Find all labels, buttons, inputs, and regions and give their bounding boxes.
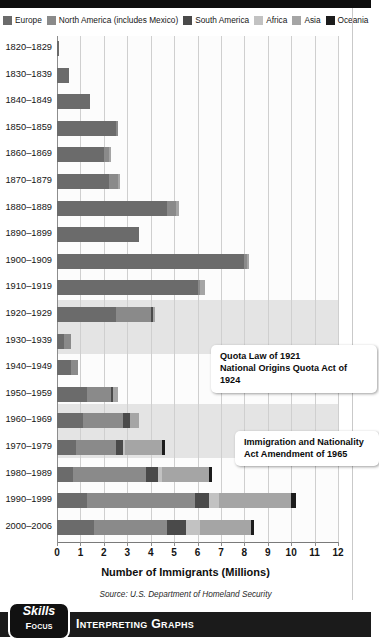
bar-segment bbox=[176, 201, 178, 216]
bar-segment bbox=[162, 440, 164, 455]
x-axis-tick bbox=[268, 542, 269, 546]
immigration-act-callout: Immigration and Nationality Act Amendmen… bbox=[235, 431, 379, 466]
x-axis-tick bbox=[104, 542, 105, 546]
y-axis-label: 1920–1929 bbox=[0, 308, 52, 318]
y-axis-label: 1980–1989 bbox=[0, 468, 52, 478]
x-axis-tick bbox=[80, 542, 81, 546]
bar-segment bbox=[167, 201, 176, 216]
bar-segment bbox=[116, 307, 151, 322]
skills-badge-word-skills: Skills bbox=[8, 604, 70, 618]
bar-segment bbox=[57, 493, 87, 508]
legend-item-africa: Africa bbox=[254, 16, 287, 25]
x-axis-tick-label: 4 bbox=[141, 547, 161, 558]
bar-segment bbox=[200, 280, 205, 295]
bar-segment bbox=[57, 334, 64, 349]
skills-badge-word-focus: Focus bbox=[8, 620, 70, 631]
x-axis-tick-label: 7 bbox=[211, 547, 231, 558]
y-axis-label: 1900–1909 bbox=[0, 255, 52, 265]
bar-segment bbox=[83, 413, 123, 428]
top-black-strip bbox=[0, 0, 371, 8]
bar-segment bbox=[247, 254, 249, 269]
y-axis-label: 1880–1889 bbox=[0, 202, 52, 212]
x-axis-tick bbox=[221, 542, 222, 546]
bar-segment bbox=[57, 94, 90, 109]
bar-segment bbox=[113, 387, 118, 402]
bar-segment bbox=[57, 254, 244, 269]
quota-callout-line-2: National Origins Quota Act of 1924 bbox=[220, 362, 368, 386]
bar-segment bbox=[57, 520, 94, 535]
legend-item-label: Asia bbox=[304, 16, 320, 25]
bar-segment bbox=[57, 280, 198, 295]
stacked-bar bbox=[57, 254, 249, 269]
bar-segment bbox=[87, 387, 110, 402]
stacked-bar bbox=[57, 201, 179, 216]
x-axis-tick bbox=[127, 542, 128, 546]
legend-item-europe: Europe bbox=[3, 16, 42, 25]
bar-segment bbox=[219, 493, 292, 508]
bar-segment bbox=[195, 493, 209, 508]
bar-segment bbox=[116, 121, 118, 136]
legend-item-label: South America bbox=[195, 16, 249, 25]
bar-segment bbox=[57, 147, 104, 162]
bar-segment bbox=[57, 413, 83, 428]
bar-segment bbox=[87, 493, 195, 508]
x-axis-tick-label: 2 bbox=[94, 547, 114, 558]
stacked-bar bbox=[57, 280, 205, 295]
bar-segment bbox=[57, 68, 69, 83]
stacked-bar bbox=[57, 334, 71, 349]
x-axis-tick-label: 5 bbox=[164, 547, 184, 558]
y-axis-label: 1850–1859 bbox=[0, 122, 52, 132]
bar-segment bbox=[125, 440, 162, 455]
legend-item-label: North America (includes Mexico) bbox=[59, 16, 178, 25]
x-axis-tick-label: 3 bbox=[117, 547, 137, 558]
x-axis-tick-label: 10 bbox=[281, 547, 301, 558]
bar-segment bbox=[57, 360, 71, 375]
stacked-bar bbox=[57, 41, 59, 56]
legend-swatch-icon bbox=[254, 16, 263, 25]
legend-swatch-icon bbox=[3, 16, 12, 25]
bar-segment bbox=[57, 227, 139, 242]
x-axis-tick-label: 8 bbox=[234, 547, 254, 558]
bar-segment bbox=[57, 387, 87, 402]
legend-item-asia: Asia bbox=[292, 16, 320, 25]
x-axis-tick bbox=[174, 542, 175, 546]
x-axis-tick bbox=[57, 542, 58, 546]
y-axis-label: 1990–1999 bbox=[0, 494, 52, 504]
y-axis-label: 2000–2006 bbox=[0, 521, 52, 531]
bar-segment bbox=[167, 520, 186, 535]
bar-segment bbox=[57, 440, 76, 455]
bar-segment bbox=[251, 520, 253, 535]
quota-callout-line-1: Quota Law of 1921 bbox=[220, 350, 368, 362]
bar-segment bbox=[116, 440, 123, 455]
bar-segment bbox=[76, 440, 116, 455]
legend-swatch-icon bbox=[326, 16, 335, 25]
y-axis-label: 1940–1949 bbox=[0, 361, 52, 371]
y-axis-label: 1830–1839 bbox=[0, 69, 52, 79]
x-axis-tick-label: 6 bbox=[188, 547, 208, 558]
legend-swatch-icon bbox=[183, 16, 192, 25]
stacked-bar bbox=[57, 360, 78, 375]
bar-segment bbox=[153, 307, 155, 322]
stacked-bar bbox=[57, 520, 254, 535]
bar-segment bbox=[109, 147, 111, 162]
x-axis-tick-label: 12 bbox=[328, 547, 348, 558]
chart-legend: EuropeNorth America (includes Mexico)Sou… bbox=[0, 9, 371, 31]
legend-item-north: North America (includes Mexico) bbox=[47, 16, 178, 25]
bar-segment bbox=[57, 121, 116, 136]
x-axis-title: Number of Immigrants (Millions) bbox=[0, 566, 371, 578]
bar-segment bbox=[57, 307, 116, 322]
stacked-bar bbox=[57, 387, 118, 402]
bar-segment bbox=[64, 334, 71, 349]
bar-segment bbox=[57, 201, 167, 216]
y-axis-label: 1930–1939 bbox=[0, 335, 52, 345]
stacked-bar bbox=[57, 68, 69, 83]
bar-segment bbox=[209, 467, 211, 482]
legend-item-south: South America bbox=[183, 16, 249, 25]
stacked-bar bbox=[57, 147, 111, 162]
stacked-bar bbox=[57, 227, 139, 242]
bar-segment bbox=[123, 413, 130, 428]
bar-segment bbox=[209, 493, 218, 508]
stacked-bar bbox=[57, 467, 212, 482]
bar-segment bbox=[57, 41, 59, 56]
bar-segment bbox=[57, 174, 109, 189]
